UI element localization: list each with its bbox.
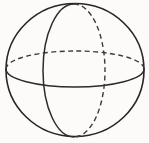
figure-background [0,0,149,143]
sphere-diagram: Sphere with equator and meridian great c… [0,0,149,143]
sphere-figure: Sphere with equator and meridian great c… [0,0,149,143]
